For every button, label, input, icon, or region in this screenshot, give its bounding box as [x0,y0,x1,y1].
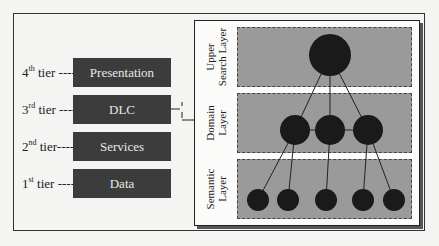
semantic-node [352,189,374,211]
upper-node [309,34,351,76]
hierarchy-graph [0,0,439,246]
dlc-connector [171,102,194,120]
semantic-node [277,189,299,211]
domain-node [315,115,345,145]
domain-node [280,115,310,145]
semantic-node [315,189,337,211]
semantic-node [247,189,269,211]
domain-node [353,115,383,145]
semantic-node [383,189,405,211]
